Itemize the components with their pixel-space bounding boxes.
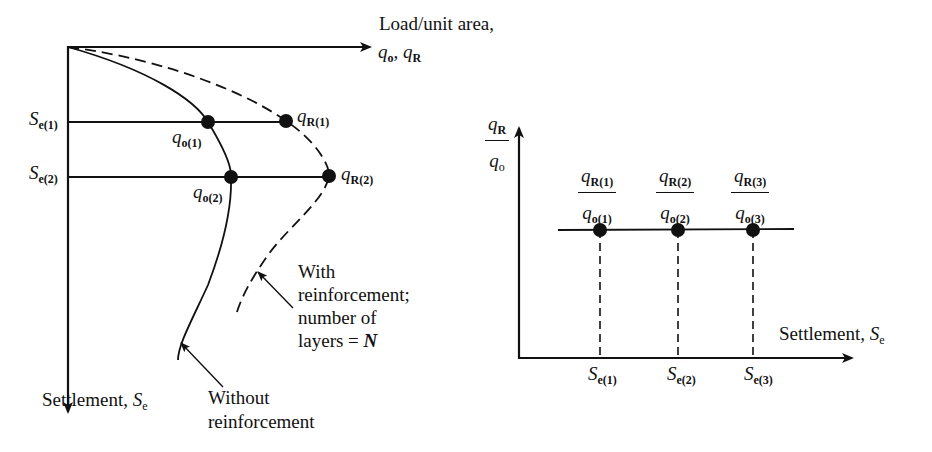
symbol-s: S <box>744 363 754 384</box>
ratio-numerator: qR(1) <box>578 166 616 193</box>
annotation-text: layers = <box>298 330 364 351</box>
unreinforced-pointer-arrow <box>181 343 223 387</box>
annotation-line: reinforcement; <box>298 283 410 306</box>
qr1-label: qR(1) <box>297 106 329 129</box>
symbol-q: q <box>582 202 592 223</box>
symbol-q: q <box>193 181 203 202</box>
symbol-sub: e <box>142 399 147 413</box>
settlement-tick-3: Se(3) <box>744 364 773 387</box>
symbol-sub: e(1) <box>39 118 58 132</box>
symbol-sub: R(1) <box>307 115 330 129</box>
settlement-title: Settlement, <box>779 323 870 344</box>
settlement-title: Settlement, <box>42 389 133 410</box>
left-load-settlement-plot <box>67 46 370 412</box>
annotation-line: number of <box>298 306 410 329</box>
annotation-line: layers = N <box>298 329 410 352</box>
ratio-numerator: qR(2) <box>656 166 694 193</box>
unreinforced-annotation: Without reinforcement <box>208 386 315 434</box>
symbol-sub: R <box>413 51 422 65</box>
qr2-label: qR(2) <box>341 164 373 187</box>
diagram-canvas <box>0 0 932 452</box>
symbol-s: S <box>133 389 143 410</box>
symbol-q: q <box>378 41 388 62</box>
settlement-tick-1: Se(1) <box>588 364 617 387</box>
symbol-sub: o(1) <box>182 136 202 150</box>
symbol-sub: R <box>498 123 507 137</box>
symbol-sub: R(1) <box>591 175 614 189</box>
annotation-line: With <box>298 260 410 283</box>
symbol-sub: e(2) <box>677 373 696 387</box>
symbol-sub: o(1) <box>592 212 612 226</box>
settlement-level-2-label: Se(2) <box>29 163 58 186</box>
load-axis-title: Load/unit area, <box>379 13 494 34</box>
point-qr2 <box>322 169 336 183</box>
symbol-sub: o(3) <box>745 212 765 226</box>
symbol-sub: e(2) <box>39 172 58 186</box>
load-axis-symbols: qo, qR <box>378 42 421 65</box>
symbol-q: q <box>735 202 745 223</box>
symbol-sub: R(2) <box>669 175 692 189</box>
qo2-label: qo(2) <box>193 182 223 205</box>
ratio-denominator: qo(3) <box>731 193 769 225</box>
ratio-numerator: qR <box>485 114 509 141</box>
point-qo2 <box>224 170 238 184</box>
point-qo1 <box>201 115 215 129</box>
point-qr1 <box>279 114 293 128</box>
qo1-label: qo(1) <box>172 127 202 150</box>
ratio-denominator: qo(1) <box>578 193 616 225</box>
settlement-axis-right-label: Settlement, Se <box>779 324 885 347</box>
symbol-q: q <box>581 165 591 186</box>
symbol-s: S <box>588 363 598 384</box>
symbol-sub: R(2) <box>351 173 374 187</box>
settlement-axis-label: Settlement, Se <box>42 390 148 413</box>
symbol-q: q <box>297 105 307 126</box>
symbol-q: q <box>488 113 498 134</box>
symbol-q: q <box>734 165 744 186</box>
symbol-q: q <box>341 163 351 184</box>
ratio-denominator: qo(2) <box>656 193 694 225</box>
symbol-sub: o(2) <box>670 212 690 226</box>
reinforced-annotation: With reinforcement; number of layers = N <box>298 260 410 352</box>
settlement-tick-2: Se(2) <box>667 364 696 387</box>
symbol-n: N <box>364 330 378 351</box>
symbol-q: q <box>489 150 499 171</box>
symbol-sub: o(2) <box>203 191 223 205</box>
ratio-axis-label: qR qo <box>485 114 509 173</box>
symbol-sub: e(1) <box>598 373 617 387</box>
symbol-q: q <box>660 202 670 223</box>
symbol-s: S <box>29 162 39 183</box>
symbol-s: S <box>29 108 39 129</box>
symbol-s: S <box>667 363 677 384</box>
settlement-level-1-label: Se(1) <box>29 109 58 132</box>
ratio-label-3: qR(3) qo(3) <box>731 166 769 225</box>
ratio-label-1: qR(1) qo(1) <box>578 166 616 225</box>
reinforced-pointer-arrow <box>258 272 293 308</box>
symbol-s: S <box>870 323 880 344</box>
separator: , <box>394 41 404 62</box>
symbol-q: q <box>172 126 182 147</box>
symbol-sub: o <box>499 160 505 174</box>
symbol-sub: R(3) <box>744 175 767 189</box>
ratio-denominator: qo <box>485 141 509 173</box>
symbol-q: q <box>403 41 413 62</box>
symbol-sub: e(3) <box>754 373 773 387</box>
annotation-line: reinforcement <box>208 410 315 434</box>
ratio-numerator: qR(3) <box>731 166 769 193</box>
load-axis-label: Load/unit area, <box>379 14 494 35</box>
symbol-sub: e <box>879 333 884 347</box>
annotation-line: Without <box>208 386 315 410</box>
ratio-label-2: qR(2) qo(2) <box>656 166 694 225</box>
symbol-q: q <box>659 165 669 186</box>
